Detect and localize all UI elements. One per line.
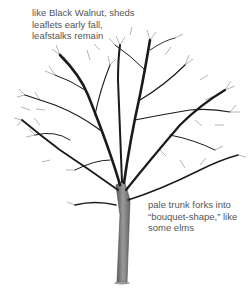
annotation-crown-line-3: leafstalks remain <box>32 30 135 42</box>
tree-drawing <box>0 0 252 289</box>
tree-illustration-panel: like Black Walnut, sheds leaflets early … <box>0 0 252 289</box>
annotation-crown-line-2: leaflets early fall, <box>32 19 135 31</box>
annotation-crown: like Black Walnut, sheds leaflets early … <box>32 7 135 42</box>
annotation-trunk-line-1: pale trunk forks into <box>148 199 237 211</box>
annotation-trunk: pale trunk forks into “bouquet-shape,” l… <box>148 199 237 234</box>
annotation-trunk-line-2: “bouquet-shape,” like <box>148 211 237 223</box>
annotation-trunk-line-3: some elms <box>148 222 237 234</box>
annotation-crown-line-1: like Black Walnut, sheds <box>32 7 135 19</box>
